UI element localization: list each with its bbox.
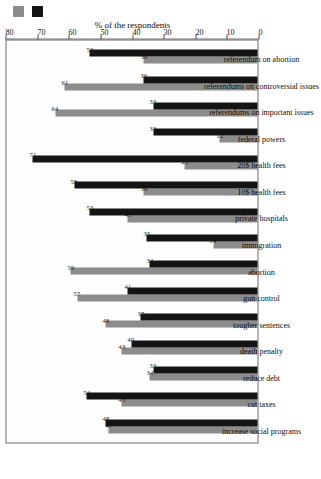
category-label-cell: referendums on controversial issues — [259, 69, 319, 96]
category-label: 10$ health fees — [237, 188, 285, 196]
bar-value-label: 40 — [127, 337, 134, 344]
value-axis-spine — [5, 38, 258, 39]
bar-group: 4837 — [6, 307, 257, 333]
category-label-cell: cut taxes — [259, 387, 319, 414]
tick-label: 60 — [68, 28, 76, 36]
tick-label: 20 — [195, 28, 203, 36]
bar-value-label: 43 — [118, 344, 125, 351]
category-axis-labels: increase social programscut taxesreduce … — [259, 39, 319, 443]
bar-value-label: 34 — [146, 370, 153, 377]
category-label: increase social programs — [221, 427, 300, 435]
bar: 48 — [105, 419, 257, 426]
bar: 43 — [121, 347, 257, 354]
bar-value-label: 41 — [124, 284, 131, 291]
bar-group: 3653 — [6, 43, 257, 69]
category-label-cell: private hospitals — [259, 201, 319, 228]
bar-group: 1233 — [6, 122, 257, 148]
bar: 71 — [32, 155, 257, 162]
bar: 57 — [77, 294, 257, 301]
category-label: immigration — [241, 241, 281, 249]
category-label-cell: referendums on important issues — [259, 95, 319, 122]
bar-value-label: 59 — [67, 264, 74, 271]
bar: 35 — [146, 234, 257, 241]
category-label: tougher sentences — [232, 321, 289, 329]
bar-group: 4340 — [6, 333, 257, 359]
tick-label: 70 — [37, 28, 45, 36]
category-label: federal powers — [237, 135, 284, 143]
bar-group: 4748 — [6, 413, 257, 439]
category-label-cell: increase social programs — [259, 413, 319, 440]
value-axis-title: % of the respondents — [94, 19, 170, 29]
category-label-cell: death penalty — [259, 334, 319, 361]
bar-value-label: 57 — [73, 291, 80, 298]
tick-label: 0 — [258, 28, 262, 36]
bar-value-label: 35 — [143, 231, 150, 238]
bar-value-label: 61 — [61, 80, 68, 87]
bar-value-label: 71 — [29, 152, 36, 159]
bar-group: 3433 — [6, 360, 257, 386]
chart-canvas: 4748435434334340483757415934143541533658… — [0, 0, 321, 479]
bar: 58 — [74, 181, 257, 188]
category-label: 20$ health fees — [237, 161, 285, 169]
tick-label: 10 — [226, 28, 234, 36]
category-label-cell: abortion — [259, 254, 319, 281]
category-label-cell: tougher sentences — [259, 307, 319, 334]
bar-value-label: 36 — [140, 73, 147, 80]
category-label-cell: gun control — [259, 281, 319, 308]
bar-value-label: 37 — [137, 310, 144, 317]
bar-groups: 4748435434334340483757415934143541533658… — [6, 40, 257, 442]
bar-value-label: 33 — [149, 99, 156, 106]
plot-area: 4748435434334340483757415934143541533658… — [5, 39, 258, 443]
bar-value-label: 48 — [102, 317, 109, 324]
category-label-cell: immigration — [259, 228, 319, 255]
bar-value-label: 48 — [102, 416, 109, 423]
bar: 43 — [121, 399, 257, 406]
bar-group: 5741 — [6, 281, 257, 307]
category-label-cell: referendum on abortion — [259, 42, 319, 69]
bar: 53 — [89, 208, 257, 215]
bar-value-label: 54 — [83, 389, 90, 396]
bar: 40 — [131, 340, 258, 347]
bar: 54 — [86, 392, 257, 399]
category-label: reduce debt — [242, 374, 279, 382]
category-label: death penalty — [240, 347, 283, 355]
bar-chart: 4748435434334340483757415934143541533658… — [0, 0, 321, 479]
bar: 41 — [127, 287, 257, 294]
bar-value-label: 33 — [149, 363, 156, 370]
category-label: referendums on controversial issues — [204, 82, 319, 90]
category-label: abortion — [248, 268, 275, 276]
bar-value-label: 53 — [86, 46, 93, 53]
bar: 34 — [149, 373, 257, 380]
category-label: referendum on abortion — [223, 55, 299, 63]
bar-group: 3658 — [6, 175, 257, 201]
category-label-cell: reduce debt — [259, 360, 319, 387]
bar: 34 — [149, 260, 257, 267]
bar-group: 4153 — [6, 201, 257, 227]
bar-value-label: 58 — [70, 178, 77, 185]
bar: 33 — [153, 366, 257, 373]
bar-group: 4354 — [6, 386, 257, 412]
bar-value-label: 64 — [51, 106, 58, 113]
category-label-cell: 10$ health fees — [259, 175, 319, 202]
bar-group: 2371 — [6, 149, 257, 175]
bar-group: 5934 — [6, 254, 257, 280]
bar: 37 — [140, 313, 257, 320]
bar-value-label: 33 — [149, 125, 156, 132]
tick-label: 80 — [5, 28, 13, 36]
category-label: referendums on important issues — [209, 108, 313, 116]
category-label: private hospitals — [235, 214, 288, 222]
bar: 59 — [70, 267, 257, 274]
bar-value-label: 53 — [86, 205, 93, 212]
category-label-cell: federal powers — [259, 122, 319, 149]
bar-value-label: 34 — [146, 257, 153, 264]
bar-group: 1435 — [6, 228, 257, 254]
category-label: cut taxes — [247, 400, 275, 408]
category-label-cell: 20$ health fees — [259, 148, 319, 175]
category-label: gun control — [243, 294, 280, 302]
